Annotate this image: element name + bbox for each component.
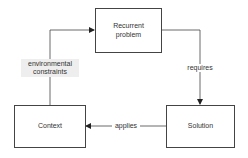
recurrent-problem-label-line2: problem <box>113 31 144 40</box>
requires-edge-label: requires <box>184 64 216 72</box>
solution-node: Solution <box>166 105 235 148</box>
edge-label-line2: constraints <box>23 68 77 76</box>
solution-label: Solution <box>188 122 213 131</box>
applies-text: applies <box>115 122 137 129</box>
recurrent-problem-label-line1: Recurrent <box>113 22 144 31</box>
context-node: Context <box>14 105 86 148</box>
applies-edge-label: applies <box>112 122 140 130</box>
requires-text: requires <box>187 64 212 71</box>
edge-label-line1: environmental <box>23 60 77 68</box>
environmental-constraints-edge-label: environmental constraints <box>21 59 79 77</box>
recurrent-problem-node: Recurrent problem <box>95 8 162 53</box>
context-label: Context <box>38 122 62 131</box>
